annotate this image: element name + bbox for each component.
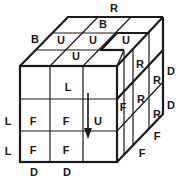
- label: L: [5, 145, 12, 157]
- label: D: [30, 166, 38, 178]
- label: U: [57, 34, 65, 46]
- label: U: [94, 115, 102, 127]
- label: F: [30, 144, 37, 156]
- label: F: [120, 101, 127, 113]
- label: D: [167, 99, 175, 111]
- label: R: [136, 58, 144, 70]
- label: L: [65, 81, 72, 93]
- rubiks-cube-diagram: R B B U U U U L F F U F F R R F R R D D …: [0, 0, 176, 192]
- label: U: [89, 34, 97, 46]
- label: L: [5, 115, 12, 127]
- down-arrow-icon: [84, 93, 92, 139]
- label: B: [31, 33, 39, 45]
- outer-labels: L L D D: [5, 115, 71, 178]
- label: R: [137, 93, 145, 105]
- label: R: [153, 108, 161, 120]
- label: F: [63, 144, 70, 156]
- front-labels: L F F U F F: [30, 81, 102, 156]
- label: R: [153, 74, 161, 86]
- label: F: [30, 115, 37, 127]
- label: R: [110, 2, 118, 14]
- top-labels: R B B U U U U: [31, 2, 130, 62]
- label: F: [154, 130, 161, 142]
- label: U: [122, 34, 130, 46]
- side-labels: R R F R R D D F F: [120, 58, 175, 159]
- label: F: [139, 147, 146, 159]
- label: F: [63, 115, 70, 127]
- label: D: [63, 166, 71, 178]
- label: D: [167, 65, 175, 77]
- label: U: [72, 50, 80, 62]
- label: B: [99, 18, 107, 30]
